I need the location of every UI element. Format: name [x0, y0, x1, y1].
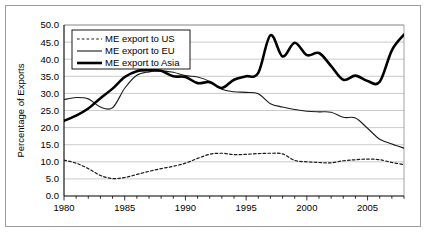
y-tick-label: 30.0 [41, 88, 60, 99]
chart-legend: ME export to USME export to EUME export … [72, 30, 190, 69]
legend-label: ME export to Asia [105, 57, 180, 68]
x-tick-label: 1990 [175, 202, 196, 213]
y-tick-label: 0.0 [46, 190, 59, 201]
x-tick-label: 1980 [53, 202, 74, 213]
legend-label: ME export to EU [105, 45, 175, 56]
x-tick-label: 2000 [296, 202, 317, 213]
y-axis-title: Percentage of Exports [15, 63, 26, 157]
y-tick-label: 15.0 [41, 139, 60, 150]
y-tick-label: 40.0 [41, 54, 60, 65]
legend-label: ME export to US [105, 33, 175, 44]
x-tick-label: 2005 [357, 202, 378, 213]
x-tick-label: 1995 [236, 202, 257, 213]
y-tick-label: 50.0 [41, 19, 60, 30]
y-tick-label: 25.0 [41, 105, 60, 116]
line-chart: 0.05.010.015.020.025.030.035.040.045.050… [0, 0, 426, 232]
x-tick-label: 1985 [114, 202, 135, 213]
y-tick-label: 35.0 [41, 71, 60, 82]
chart-figure: 0.05.010.015.020.025.030.035.040.045.050… [0, 0, 426, 232]
y-tick-label: 5.0 [46, 173, 59, 184]
y-tick-label: 10.0 [41, 156, 60, 167]
y-tick-label: 20.0 [41, 122, 60, 133]
y-tick-label: 45.0 [41, 37, 60, 48]
